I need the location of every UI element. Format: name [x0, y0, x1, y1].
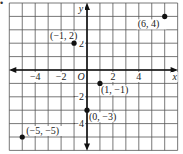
data-point — [84, 108, 89, 113]
x-tick-label: −4 — [30, 71, 41, 82]
x-tick-label: −2 — [56, 71, 67, 82]
point-label: (1, −1) — [101, 84, 128, 96]
x-axis-arrow-left-icon — [9, 67, 16, 73]
bullet-marker: • — [0, 0, 3, 8]
y-axis-label: y — [78, 3, 84, 14]
data-point — [71, 41, 76, 46]
point-label: (−5, −5) — [26, 125, 59, 137]
point-label: (−1, 2) — [50, 30, 77, 42]
x-tick-label: 4 — [136, 71, 141, 82]
origin-label: O — [77, 71, 84, 82]
data-points: (6, 4)(−1, 2)(1, −1)(0, −3)(−5, −5) — [20, 14, 168, 140]
point-label: (6, 4) — [138, 18, 160, 30]
y-axis-arrow-down-icon — [84, 143, 90, 150]
point-label: (0, −3) — [89, 111, 116, 123]
x-axis-label: x — [171, 71, 177, 82]
data-point — [20, 134, 25, 139]
x-tick-label: 2 — [110, 71, 115, 82]
coordinate-plane: −4−2242−2−4xyO (6, 4)(−1, 2)(1, −1)(0, −… — [0, 0, 183, 154]
y-tick-label: −4 — [73, 118, 84, 129]
data-point — [97, 81, 102, 86]
data-point — [162, 14, 167, 19]
y-tick-label: −2 — [73, 91, 84, 102]
